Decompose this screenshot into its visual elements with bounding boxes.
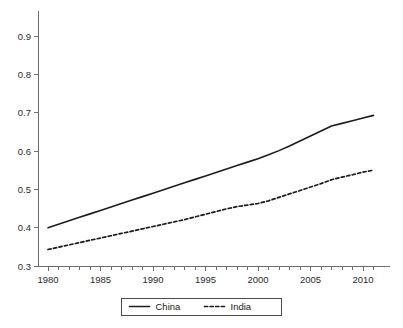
chart-legend: ChinaIndia [122, 298, 282, 315]
x-tick-label: 1985 [90, 274, 111, 285]
x-tick-label: 1990 [142, 274, 163, 285]
legend-label-china: China [156, 301, 182, 312]
legend-label-india: India [231, 301, 252, 312]
x-tick-label: 1980 [37, 274, 58, 285]
line-chart: 0.30.40.50.60.70.80.9 198019851990199520… [0, 0, 403, 328]
y-tick-label: 0.3 [18, 261, 31, 272]
x-tick-label: 1995 [195, 274, 216, 285]
y-tick-label: 0.9 [18, 31, 31, 42]
chart-container: 0.30.40.50.60.70.80.9 198019851990199520… [0, 0, 403, 328]
x-tick-label: 2010 [352, 274, 373, 285]
y-tick-label: 0.6 [18, 146, 31, 157]
y-tick-label: 0.7 [18, 107, 31, 118]
x-tick-label: 2005 [300, 274, 321, 285]
y-tick-label: 0.4 [18, 222, 31, 233]
y-tick-label: 0.5 [18, 184, 31, 195]
y-tick-label: 0.8 [18, 69, 31, 80]
x-tick-label: 2000 [247, 274, 268, 285]
